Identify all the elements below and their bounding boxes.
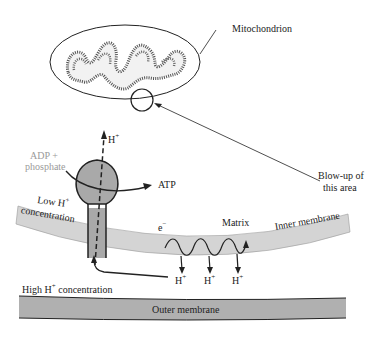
blowup-label-line2: this area — [323, 183, 357, 193]
atp-synthase-head — [76, 160, 118, 204]
matrix-label: Matrix — [222, 218, 249, 228]
adp-label: ADP + — [30, 151, 58, 161]
blowup-label-line1: Blow-up of — [318, 171, 364, 181]
blowup-circle — [131, 89, 153, 111]
electron-label: e− — [158, 223, 166, 233]
cristae — [67, 43, 184, 89]
phosphate-label: phosphate — [25, 162, 66, 172]
outer-membrane-label: Outer membrane — [152, 305, 219, 315]
h-plus-label-2: H+ — [204, 276, 215, 286]
h-plus-label-1: H+ — [175, 276, 186, 286]
atp-label: ATP — [158, 180, 176, 190]
h-plus-top-label: H+ — [108, 135, 119, 145]
mitochondrion-label: Mitochondrion — [232, 24, 292, 34]
high-h-concentration-label: High H+ concentration — [22, 285, 113, 295]
h-plus-label-3: H+ — [232, 276, 243, 286]
